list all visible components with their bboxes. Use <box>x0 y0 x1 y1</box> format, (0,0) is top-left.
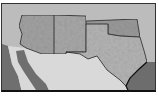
state-new-mexico <box>54 15 86 54</box>
map-frame <box>1 3 156 92</box>
southwest-map <box>2 4 156 92</box>
